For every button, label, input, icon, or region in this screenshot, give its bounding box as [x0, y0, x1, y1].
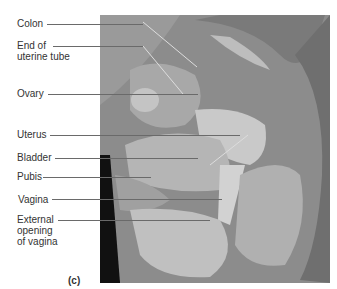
label-line: External — [17, 214, 58, 225]
leader-line-colon — [47, 24, 143, 25]
label-line: uterine tube — [17, 51, 70, 62]
label-ovary: Ovary — [17, 88, 44, 99]
label-external-opening-of-vagina: External opening of vagina — [17, 214, 58, 247]
leader-line-external-opening-of-vagina — [58, 220, 210, 221]
panel-label: (c) — [68, 275, 80, 286]
label-vagina: Vagina — [18, 194, 48, 205]
label-line: of vagina — [17, 236, 58, 247]
label-uterus: Uterus — [17, 129, 46, 140]
pelvis-illustration — [100, 15, 330, 283]
label-line: opening — [17, 225, 58, 236]
cadaver-sagittal-pelvis-photo — [100, 15, 330, 283]
leader-line-bladder — [55, 158, 198, 159]
label-end-of-uterine-tube: End of uterine tube — [17, 40, 70, 62]
leader-line-ovary — [48, 94, 198, 95]
label-bladder: Bladder — [17, 152, 51, 163]
leader-line-pubis — [43, 177, 151, 178]
label-pubis: Pubis — [17, 171, 42, 182]
label-colon: Colon — [17, 18, 43, 29]
leader-line-uterus — [50, 135, 240, 136]
leader-line-vagina — [52, 199, 222, 200]
leader-line-end-of-uterine-tube — [53, 46, 143, 47]
